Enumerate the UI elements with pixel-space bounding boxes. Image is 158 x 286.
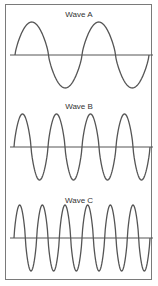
wave-a-label: Wave A <box>0 10 158 19</box>
wave-c-label: Wave C <box>0 196 158 205</box>
wave-b-group <box>10 114 153 180</box>
wave-c-group <box>10 205 153 271</box>
waves-canvas <box>0 0 158 286</box>
wave-a-group <box>10 22 153 88</box>
wave-b-label: Wave B <box>0 102 158 111</box>
